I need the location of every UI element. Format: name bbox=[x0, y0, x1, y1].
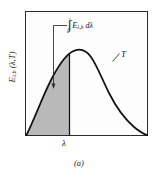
y-axis-label-main: E bbox=[7, 77, 17, 82]
y-axis-label: Eλ,b (λ,T) bbox=[7, 27, 17, 107]
figure-caption: (a) bbox=[0, 158, 158, 168]
integral-differential: dλ bbox=[85, 21, 92, 30]
integral-annotation-label: ∫λ0Eλ,b dλ bbox=[68, 21, 93, 31]
integral-lower-limit: 0 bbox=[68, 28, 71, 33]
y-axis-label-arguments: (λ,T) bbox=[7, 51, 17, 70]
temperature-label: T bbox=[121, 49, 126, 59]
blackbody-emissive-power-figure: Eλ,b (λ,T) ∫λ0Eλ,b dλ T λ (a) bbox=[0, 0, 158, 178]
x-axis-lambda-label: λ bbox=[62, 138, 66, 148]
temperature-leader-line bbox=[113, 54, 120, 62]
integral-upper-limit: λ bbox=[69, 18, 72, 23]
integrand-subscript: λ,b bbox=[77, 24, 83, 30]
y-axis-label-subscript: λ,b bbox=[11, 70, 17, 77]
